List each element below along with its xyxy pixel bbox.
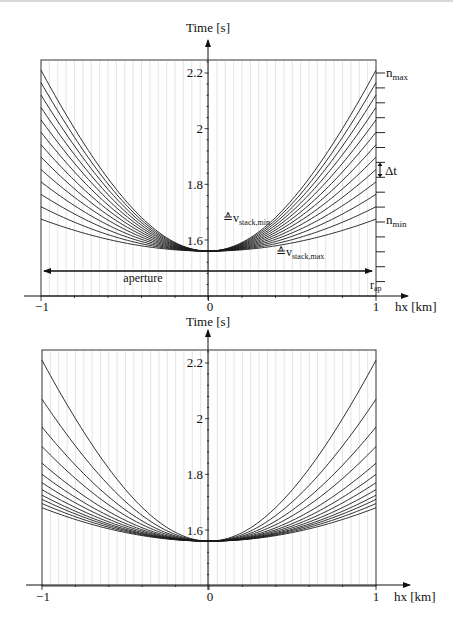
top-right-time-ticks: [376, 73, 385, 282]
bottom-x-tick-0: 0: [207, 589, 214, 604]
bottom-vertical-gridlines: [50, 351, 367, 585]
top-plot: Time [s] 2.2 2 1.8 1.6 −1 0 1 hx [km] nm…: [24, 20, 437, 314]
top-x-axis-label: hx [km]: [395, 299, 437, 314]
v-stack-min-label: ≙vstack,min: [223, 211, 270, 227]
v-stack-max-label: ≙vstack,max: [276, 245, 324, 261]
aperture-label: aperture: [123, 271, 162, 285]
bottom-plot: Time [s] 2.2 2 1.8 1.6 −1 0 1 hx [km]: [26, 314, 436, 604]
top-y-tick-1.6: 1.6: [187, 233, 204, 248]
top-y-tick-2.2: 2.2: [187, 65, 203, 80]
delta-t-label: Δt: [385, 163, 397, 178]
top-x-tick-0: 0: [207, 299, 214, 314]
bottom-x-axis-label: hx [km]: [394, 589, 436, 604]
n-max-label: nmax: [386, 65, 408, 82]
top-x-tick-1: 1: [373, 299, 380, 314]
figure: Time [s] 2.2 2 1.8 1.6 −1 0 1 hx [km] nm…: [0, 0, 453, 619]
bottom-y-axis-label: Time [s]: [186, 314, 230, 329]
bottom-x-tick-1: 1: [373, 589, 380, 604]
bottom-y-tick-1.6: 1.6: [187, 523, 204, 538]
bottom-y-tick-2.2: 2.2: [187, 355, 203, 370]
top-y-tick-2: 2: [197, 121, 204, 136]
delta-t-arrow-up-icon: [378, 163, 383, 167]
bottom-y-tick-2: 2: [197, 411, 204, 426]
n-min-label: nmin: [386, 212, 407, 229]
top-y-tick-1.8: 1.8: [187, 177, 203, 192]
top-x-tick-minus1: −1: [35, 299, 49, 314]
bottom-y-tick-1.8: 1.8: [187, 467, 203, 482]
top-y-axis-label: Time [s]: [186, 20, 230, 35]
bottom-x-tick-minus1: −1: [36, 589, 50, 604]
